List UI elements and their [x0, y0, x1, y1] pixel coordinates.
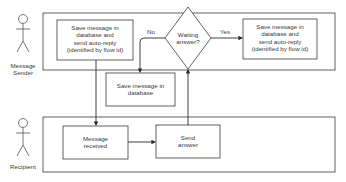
message-received-text: Message received [63, 135, 128, 150]
recipient-actor-icon [16, 119, 30, 157]
line: database and [57, 31, 133, 38]
sender-label: Message Sender [4, 62, 42, 77]
line: Waiting [170, 31, 206, 38]
decision-text: Waiting answer? [170, 31, 206, 46]
line: answer? [170, 38, 206, 45]
save-autoreply-left-text: Save message in database and send auto-r… [57, 24, 133, 54]
sender-label-line1: Message [4, 62, 42, 69]
line: received [63, 142, 128, 149]
yes-edge-label: Yes [217, 28, 233, 35]
line: Save message in [57, 24, 133, 31]
line: Save message in [106, 82, 175, 89]
line: (identified by flow id) [243, 45, 317, 52]
line: Message [63, 135, 128, 142]
save-db-text: Save message in database [106, 82, 175, 97]
save-autoreply-right-text: Save message in database and send auto-r… [243, 23, 317, 53]
line: send auto-reply [243, 38, 317, 45]
no-edge-label: No [144, 28, 158, 35]
line: database [106, 89, 175, 96]
line: (identified by flow id) [57, 46, 133, 53]
sender-label-line2: Sender [4, 69, 42, 76]
line: Save message in [243, 23, 317, 30]
line: Send [156, 134, 220, 141]
recipient-label: Recipient [2, 163, 44, 170]
sender-actor-icon [16, 15, 30, 53]
edge-no-to-save-db [140, 38, 165, 72]
line: answer [156, 141, 220, 148]
line: send auto-reply [57, 39, 133, 46]
line: database and [243, 30, 317, 37]
send-answer-text: Send answer [156, 134, 220, 149]
